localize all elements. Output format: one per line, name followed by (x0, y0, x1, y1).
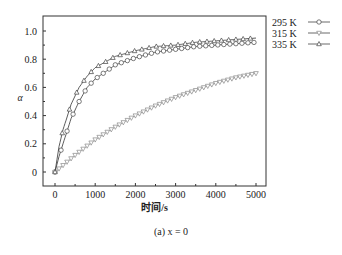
y-tick-label: 0.2 (25, 138, 38, 149)
legend-label: 335 K (272, 39, 298, 50)
y-tick-label: 1.0 (25, 26, 38, 37)
y-axis-label: α (17, 92, 23, 103)
legend-label: 295 K (272, 17, 298, 28)
chart: 01000200030004000500000.20.40.60.81.0时间/… (0, 0, 342, 255)
x-axis-label: 时间/s (141, 201, 168, 213)
figure-caption: (a) x = 0 (0, 226, 342, 237)
series-315k (53, 72, 259, 175)
x-tick-label: 1000 (85, 189, 105, 200)
y-tick-label: 0.8 (25, 54, 38, 65)
x-tick-label: 2000 (125, 189, 145, 200)
x-tick-label: 0 (53, 189, 58, 200)
x-tick-label: 3000 (166, 189, 186, 200)
y-tick-label: 0.4 (25, 110, 38, 121)
y-tick-label: 0.6 (25, 82, 38, 93)
plot-frame (43, 16, 266, 186)
x-tick-label: 4000 (206, 189, 226, 200)
series-295k (53, 40, 256, 174)
y-tick-label: 0 (32, 167, 37, 178)
x-tick-label: 5000 (246, 189, 266, 200)
legend-label: 315 K (272, 28, 298, 39)
